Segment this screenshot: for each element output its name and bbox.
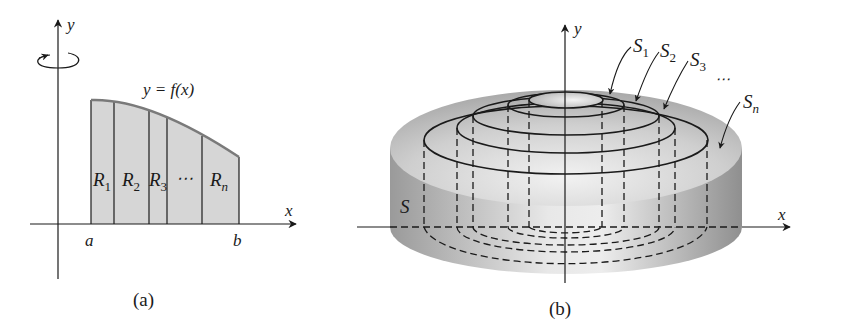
shell-label-s3: S3 <box>690 49 706 74</box>
x-axis-label: x <box>284 201 293 220</box>
shell-label-sn: Sn <box>743 91 759 116</box>
x-axis-label-b: x <box>777 205 786 224</box>
figure: y x y = f(x) a b R1 R2 R3 ⋯ Rn (a) <box>0 0 855 330</box>
region-under-curve <box>91 100 239 224</box>
caption-a: (a) <box>133 289 154 311</box>
y-axis-label: y <box>65 15 75 34</box>
y-axis-label-b: y <box>572 19 582 38</box>
central-hole <box>529 92 603 108</box>
curve-label: y = f(x) <box>141 80 194 99</box>
b-label: b <box>233 231 242 250</box>
a-label: a <box>85 231 94 250</box>
shell-label-s1: S1 <box>633 35 649 60</box>
strip-label-ellipsis: ⋯ <box>176 169 193 188</box>
shell-label-ellipsis: ⋯ <box>715 71 730 87</box>
caption-b: (b) <box>549 298 571 320</box>
solid-label: S <box>400 196 410 217</box>
shell-label-s2: S2 <box>660 40 676 65</box>
panel-b: y x S S1 S2 S3 ⋯ Sn (b) <box>357 19 790 320</box>
panel-a: y x y = f(x) a b R1 R2 R3 ⋯ Rn (a) <box>30 15 296 311</box>
